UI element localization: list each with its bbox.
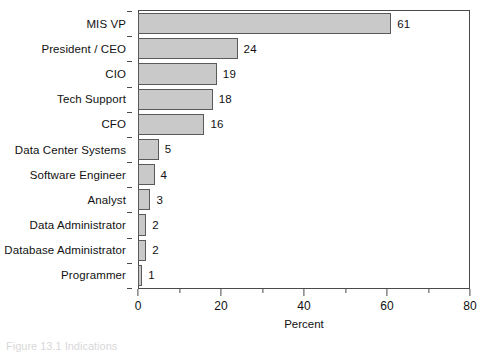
y-axis-label-8: Analyst xyxy=(88,194,126,206)
bar xyxy=(138,240,146,261)
y-axis-tick xyxy=(127,112,132,113)
bar xyxy=(138,38,238,59)
bar-value-label: 19 xyxy=(223,68,236,80)
bar-row: 16 xyxy=(138,112,470,137)
y-axis-label-1: MIS VP xyxy=(86,18,126,30)
bar-row: 1 xyxy=(138,263,470,288)
bar xyxy=(138,114,204,135)
bar-value-label: 2 xyxy=(152,244,159,256)
y-axis-tick xyxy=(127,288,132,289)
y-axis-label-2: President / CEO xyxy=(41,43,126,55)
x-axis-tick-minor xyxy=(345,289,346,293)
x-axis-tick-label: 60 xyxy=(380,299,393,313)
y-axis-label-6: Data Center Systems xyxy=(15,144,126,156)
y-axis-tick xyxy=(127,87,132,88)
bar xyxy=(138,63,217,84)
bar-value-label: 3 xyxy=(156,194,163,206)
y-axis-label-4: Tech Support xyxy=(57,93,126,105)
x-axis-tick-major xyxy=(386,289,387,296)
bar-row: 61 xyxy=(138,11,470,36)
x-axis-tick-minor xyxy=(428,289,429,293)
bar-row: 2 xyxy=(138,238,470,263)
bar-row: 3 xyxy=(138,187,470,212)
x-axis-tick-major xyxy=(137,289,138,296)
y-axis-label-5: CFO xyxy=(101,118,126,130)
y-axis-tick xyxy=(127,263,132,264)
bar xyxy=(138,189,150,210)
bar xyxy=(138,265,142,286)
x-axis-tick-label: 40 xyxy=(297,299,310,313)
bar xyxy=(138,214,146,235)
y-axis-label-9: Data Administrator xyxy=(30,219,126,231)
y-axis-category-labels: MIS VPPresident / CEOCIOTech SupportCFOD… xyxy=(0,11,132,288)
x-axis-tick-label: 20 xyxy=(214,299,227,313)
bar-value-label: 24 xyxy=(244,43,257,55)
y-axis-tick xyxy=(127,137,132,138)
x-axis-tick-minor xyxy=(179,289,180,293)
bar-row: 2 xyxy=(138,212,470,237)
bar-row: 4 xyxy=(138,162,470,187)
bar-value-label: 2 xyxy=(152,219,159,231)
bar-row: 5 xyxy=(138,137,470,162)
y-axis-tick xyxy=(127,61,132,62)
bar-value-label: 18 xyxy=(219,93,232,105)
y-axis-tick xyxy=(127,11,132,12)
x-axis-tick-major xyxy=(303,289,304,296)
bar xyxy=(138,164,155,185)
bar-row: 19 xyxy=(138,61,470,86)
x-axis-tick-major xyxy=(469,289,470,296)
bar-value-label: 4 xyxy=(161,169,168,181)
bar-row: 24 xyxy=(138,36,470,61)
y-axis-tick xyxy=(127,36,132,37)
x-axis-tick-label: 80 xyxy=(463,299,476,313)
bar xyxy=(138,13,391,34)
y-axis-label-11: Programmer xyxy=(61,269,126,281)
bar-value-label: 16 xyxy=(210,118,223,130)
bar-value-label: 61 xyxy=(397,18,410,30)
x-axis-tick-major xyxy=(220,289,221,296)
y-axis-tick xyxy=(127,212,132,213)
x-axis: 020406080 xyxy=(138,289,470,290)
bar-row: 18 xyxy=(138,87,470,112)
y-axis-label-3: CIO xyxy=(105,68,126,80)
bar xyxy=(138,89,213,110)
x-axis-tick-minor xyxy=(262,289,263,293)
bar-series: 6124191816543221 xyxy=(138,11,470,288)
x-axis-tick-label: 0 xyxy=(135,299,142,313)
bar-value-label: 1 xyxy=(148,269,155,281)
y-axis-label-7: Software Engineer xyxy=(30,169,126,181)
figure-caption: Figure 13.1 Indications xyxy=(6,340,306,352)
y-axis-tick xyxy=(127,162,132,163)
x-axis-title: Percent xyxy=(138,318,470,330)
y-axis-label-10: Database Administrator xyxy=(4,244,126,256)
bar-value-label: 5 xyxy=(165,143,172,155)
y-axis-tick xyxy=(127,187,132,188)
bar xyxy=(138,139,159,160)
y-axis-tick xyxy=(127,238,132,239)
